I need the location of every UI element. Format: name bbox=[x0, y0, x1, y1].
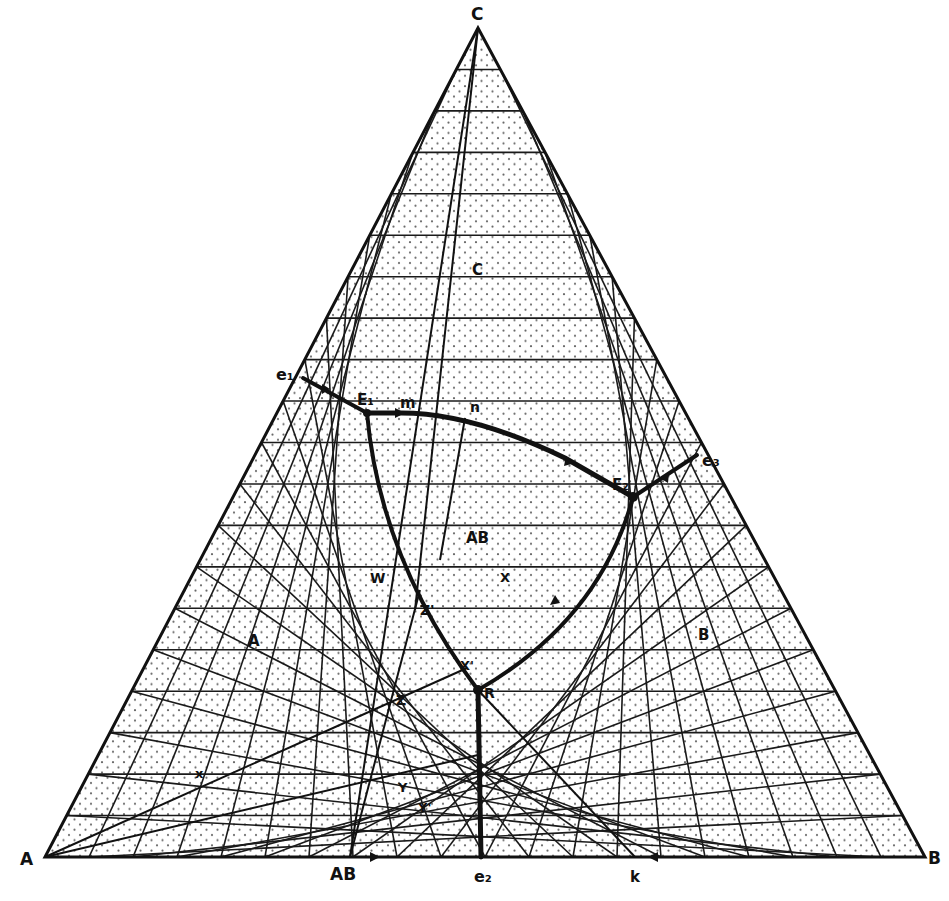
field-label-B: B bbox=[698, 626, 709, 644]
label-Y: Y bbox=[397, 780, 408, 795]
field-label-A: A bbox=[248, 632, 260, 650]
label-R: R bbox=[484, 685, 495, 701]
curve-R-e2 bbox=[478, 690, 481, 857]
label-W: W bbox=[370, 570, 385, 586]
label-n: n bbox=[470, 399, 480, 415]
field-label-AB: AB bbox=[466, 529, 489, 547]
label-E1: E₁ bbox=[357, 391, 374, 409]
ternary-phase-diagram: C A B AB e₁ e₂ e₃ E₁ E₂ m n k C A B AB W… bbox=[0, 0, 949, 901]
point-E2 bbox=[628, 492, 638, 502]
label-k: k bbox=[630, 868, 641, 886]
label-e2: e₂ bbox=[474, 867, 492, 886]
label-Zp: Z' bbox=[420, 602, 434, 618]
label-e1: e₁ bbox=[276, 365, 294, 384]
label-m: m bbox=[400, 394, 416, 412]
vertex-label-AB: AB bbox=[330, 864, 356, 884]
label-X: X bbox=[500, 570, 510, 585]
label-Xp: X' bbox=[460, 658, 474, 673]
label-E2: E₂ bbox=[612, 476, 629, 494]
point-R bbox=[473, 685, 483, 695]
label-e3: e₃ bbox=[702, 451, 720, 470]
label-x: x bbox=[195, 766, 204, 781]
label-Yp: Y' bbox=[417, 800, 431, 815]
vertex-label-C: C bbox=[471, 4, 483, 24]
point-E1 bbox=[363, 409, 371, 417]
vertex-label-B: B bbox=[928, 848, 941, 868]
vertex-label-A: A bbox=[20, 849, 34, 869]
field-label-C: C bbox=[472, 261, 483, 279]
label-Z: Z bbox=[396, 692, 406, 708]
